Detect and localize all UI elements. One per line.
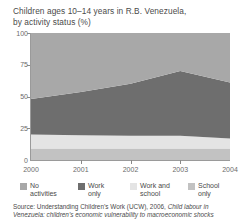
legend-item: Work only	[78, 182, 104, 197]
chart-title-line-2: by activity status (%)	[13, 17, 213, 28]
chart-legend: No activitiesWork onlyWork and schoolSch…	[20, 182, 236, 198]
y-axis-tick-label: 75	[6, 61, 28, 68]
x-axis-tick-label: 2003	[167, 166, 193, 173]
area-series-group	[31, 33, 230, 160]
legend-item: Work and school	[130, 182, 170, 197]
source-italic-2: Venezuela: children’s economic vulnerabi…	[13, 211, 214, 218]
x-axis-tick-label: 2004	[217, 166, 240, 173]
x-axis-tick-label: 2001	[68, 166, 94, 173]
y-axis-tick-mark	[27, 65, 30, 66]
source-prefix: Source: Understanding Children’s Work (U…	[13, 203, 168, 210]
legend-swatch-icon	[20, 183, 27, 190]
chart-title-line-1: Children ages 10–14 years in R.B. Venezu…	[13, 6, 213, 17]
y-axis-tick-mark	[27, 97, 30, 98]
y-axis-tick-label: 100	[6, 30, 28, 37]
x-axis-tick-mark	[81, 160, 82, 164]
legend-item: School only	[188, 182, 219, 197]
x-axis-tick-mark	[131, 160, 132, 164]
x-axis-tick-label: 2002	[118, 166, 144, 173]
chart-figure: Children ages 10–14 years in R.B. Venezu…	[0, 0, 240, 224]
legend-item: No activities	[20, 182, 57, 197]
legend-label: No activities	[30, 182, 57, 197]
stacked-area-svg	[31, 33, 230, 160]
source-italic-1: Child labour in	[168, 203, 209, 210]
legend-label: Work and school	[140, 182, 170, 197]
legend-swatch-icon	[78, 183, 85, 190]
y-axis-tick-mark	[27, 33, 30, 34]
y-axis-tick-zero: 0	[8, 157, 28, 164]
legend-label: School only	[198, 182, 219, 197]
legend-swatch-icon	[188, 183, 195, 190]
area-school-only	[31, 149, 230, 160]
source-note: Source: Understanding Children’s Work (U…	[13, 203, 233, 218]
y-axis-tick-mark	[27, 128, 30, 129]
legend-label: Work only	[88, 182, 104, 197]
chart-title: Children ages 10–14 years in R.B. Venezu…	[13, 6, 213, 27]
plot-area	[31, 33, 230, 160]
y-axis-tick-label: 25	[6, 125, 28, 132]
x-axis-tick-mark	[180, 160, 181, 164]
y-axis-tick-label: 50	[6, 93, 28, 100]
legend-swatch-icon	[130, 183, 137, 190]
x-axis-tick-label: 2000	[18, 166, 44, 173]
